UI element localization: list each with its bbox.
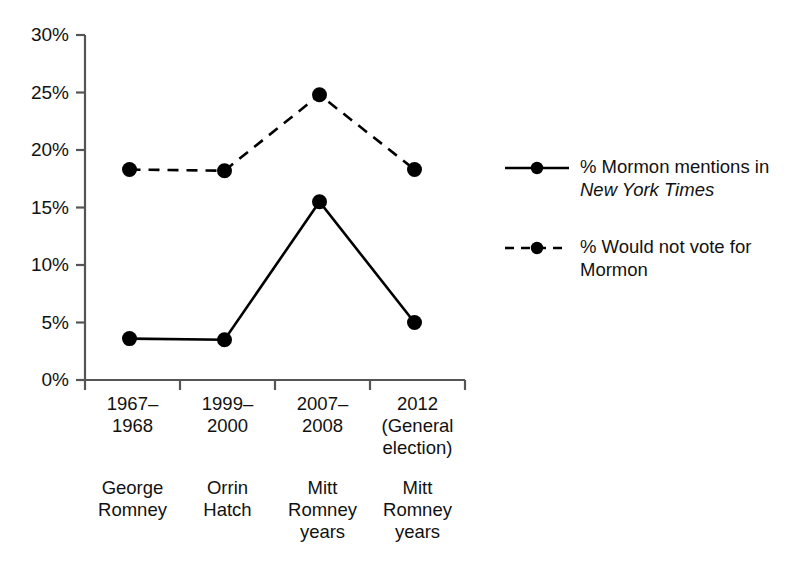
legend-label-line1: % Mormon mentions in [580, 156, 769, 177]
x-axis-person-label: Mitt Romney years [370, 477, 465, 543]
legend-entry-mormon-mentions: % Mormon mentions inNew York Times [505, 155, 795, 201]
axis-lines [85, 35, 465, 380]
series-markers [122, 87, 422, 347]
series-line-2 [130, 95, 415, 171]
legend-label-line2: Mormon [580, 259, 648, 280]
legend-entry-would-not-vote: % Would not vote forMormon [505, 235, 795, 281]
legend-label-would-not-vote: % Would not vote forMormon [580, 235, 795, 281]
y-axis-tick-label: 15% [5, 198, 69, 217]
y-axis-tick-label: 5% [5, 313, 69, 332]
legend-label-mormon-mentions: % Mormon mentions inNew York Times [580, 155, 795, 201]
legend-label-italic-nyt: New York Times [580, 179, 714, 200]
x-axis-category-text: 1999– 2000 [180, 393, 275, 437]
y-axis-tick-label: 20% [5, 140, 69, 159]
x-axis-person-label: Mitt Romney years [275, 477, 370, 543]
x-axis-ticks [85, 380, 465, 390]
data-point-marker[interactable] [407, 315, 422, 330]
y-axis-tick-label: 25% [5, 83, 69, 102]
x-axis-category-text: 2007– 2008 [275, 393, 370, 437]
data-point-marker[interactable] [122, 162, 137, 177]
x-axis-category-label: 2012 (General election) [370, 393, 465, 459]
series-line-1 [130, 202, 415, 340]
legend-marker-solid-line-icon [505, 159, 569, 177]
chart-legend: % Mormon mentions inNew York Times % Wou… [505, 155, 795, 315]
data-point-marker[interactable] [122, 331, 137, 346]
data-point-marker[interactable] [217, 163, 232, 178]
data-point-marker[interactable] [312, 194, 327, 209]
y-axis-tick-label: 10% [5, 255, 69, 274]
y-axis-ticks [76, 35, 85, 380]
x-axis-category-text: 1967– 1968 [85, 393, 180, 437]
legend-marker-dashed-line-icon [505, 239, 569, 257]
x-axis-person-label: George Romney [85, 477, 180, 521]
series-layer [130, 95, 415, 340]
x-axis-person-label: Orrin Hatch [180, 477, 275, 521]
x-axis-category-label: 1999– 2000 [180, 393, 275, 437]
y-axis-tick-label: 30% [5, 25, 69, 44]
data-point-marker[interactable] [312, 87, 327, 102]
x-axis-category-label: 1967– 1968 [85, 393, 180, 437]
chart-figure: 30%25%20%15%10%5%0% 1967– 19681999– 2000… [0, 0, 800, 581]
data-point-marker[interactable] [407, 162, 422, 177]
data-point-marker[interactable] [217, 332, 232, 347]
legend-label-line1: % Would not vote for [580, 236, 751, 257]
x-axis-category-text: 2012 (General election) [370, 393, 465, 459]
y-axis-tick-label: 0% [5, 370, 69, 389]
x-axis-category-label: 2007– 2008 [275, 393, 370, 437]
